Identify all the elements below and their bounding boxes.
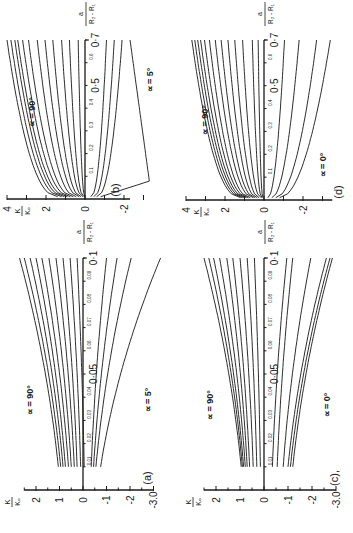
k-tick-label: 4 <box>181 207 192 213</box>
data-curve <box>235 40 259 198</box>
alpha-min-annotation: ∝ = 5° <box>143 387 153 412</box>
x-axis-label: aR₂ - R₁ <box>256 2 274 26</box>
a-tick-label: 0·1 <box>88 250 99 265</box>
panel-label: (a) <box>141 471 153 484</box>
k-tick-label: 0 <box>259 497 270 503</box>
k-tick-label: 1 <box>235 497 246 503</box>
data-curve <box>272 258 286 467</box>
a-tick-label: 0.06 <box>87 340 92 349</box>
x-axis-label: aR₂ - R₁ <box>256 220 274 244</box>
data-curve <box>221 40 255 198</box>
k-tick-label: -3.0 <box>148 491 159 509</box>
a-tick-label: 0.04 <box>87 386 92 395</box>
a-tick-label: 0·7 <box>90 32 101 47</box>
k-tick-label: 0 <box>259 207 270 213</box>
y-axis-label: KKₒ <box>13 206 31 216</box>
data-curve <box>63 258 77 467</box>
k-tick-label: -1 <box>101 495 112 504</box>
a-tick-label: 0.02 <box>268 433 273 442</box>
x-label-numerator: a <box>77 12 84 16</box>
data-curve <box>96 258 131 467</box>
a-tick-label: 0.4 <box>89 99 94 106</box>
chart-canvas: 420-20.10.20.30.40·50.60·7(b)∝ = 90°∝ = … <box>0 0 353 533</box>
x-label-denominator: R₂ - R₁ <box>267 221 274 242</box>
a-tick-label: 0.3 <box>268 122 273 129</box>
y-label-denominator: Kₒ <box>203 208 210 216</box>
a-tick-label: 0.1 <box>268 168 273 175</box>
k-tick-label: -2 <box>119 204 130 213</box>
y-label-denominator: Kₒ <box>14 498 21 506</box>
data-curve <box>94 40 115 197</box>
y-label-numerator: K <box>184 499 193 504</box>
panel-a: 210-1-2-3.00.010.020.030.040·050.060.070… <box>3 220 161 509</box>
k-tick-label: -2 <box>307 495 318 504</box>
a-tick-label: 0.01 <box>268 456 273 465</box>
a-tick-label: 0.07 <box>268 317 273 326</box>
a-tick-label: 0.2 <box>268 145 273 152</box>
panel-d: 420-20.10.20.30.40·50.60·7(d)∝ = 90°∝ = … <box>181 2 345 217</box>
k-tick-label: 0 <box>80 206 91 212</box>
panel-label: (c), <box>328 470 340 486</box>
figure-four-panel-chart: 420-20.10.20.30.40·50.60·7(b)∝ = 90°∝ = … <box>0 0 353 533</box>
x-axis-label: aR₂ - R₁ <box>77 2 95 26</box>
a-tick-label: 0.08 <box>268 294 273 303</box>
k-tick-label: 2 <box>31 497 42 503</box>
k-tick-label: -1 <box>283 495 294 504</box>
k-tick-label: 2 <box>211 497 222 503</box>
k-tick-label: -2 <box>125 495 136 504</box>
a-tick-label: 0·5 <box>269 78 280 93</box>
x-label-numerator: a <box>75 230 82 234</box>
a-tick-label: 0·5 <box>90 78 101 93</box>
a-tick-label: 0.02 <box>87 433 92 442</box>
y-axis-label: KKₒ <box>3 497 21 507</box>
alpha-min-annotation: ∝ = 0° <box>322 392 332 417</box>
a-tick-label: 0.2 <box>89 144 94 151</box>
alpha-90-annotation: ∝ = 90° <box>27 97 37 127</box>
y-axis-label: KKₒ <box>184 497 202 507</box>
y-axis-label: KKₒ <box>192 207 210 217</box>
data-curve <box>258 40 263 198</box>
a-tick-label: 0.6 <box>268 53 273 60</box>
a-tick-label: 0.09 <box>87 270 92 279</box>
y-label-denominator: Kₒ <box>24 207 31 215</box>
k-tick-label: 4 <box>2 206 13 212</box>
x-label-numerator: a <box>256 230 263 234</box>
alpha-min-annotation: ∝ = 5° <box>145 67 155 92</box>
k-tick-label: 1 <box>54 497 65 503</box>
x-label-numerator: a <box>256 12 263 16</box>
data-curve <box>276 40 317 198</box>
y-label-numerator: K <box>13 208 22 213</box>
k-tick-label: -2 <box>298 205 309 214</box>
data-curve <box>277 258 293 467</box>
y-label-numerator: K <box>3 499 12 504</box>
panel-label: (d) <box>332 185 344 198</box>
data-curve <box>254 258 260 467</box>
alpha-90-annotation: ∝ = 90° <box>205 390 215 420</box>
y-label-denominator: Kₒ <box>195 498 202 506</box>
data-curve <box>293 258 333 467</box>
alpha-90-annotation: ∝ = 90° <box>200 105 210 135</box>
x-label-denominator: R₂ - R₁ <box>86 221 93 242</box>
a-tick-label: 0.6 <box>89 53 94 60</box>
x-label-denominator: R₂ - R₁ <box>267 3 274 24</box>
x-axis-label: aR₂ - R₁ <box>75 220 93 244</box>
a-tick-label: 0.03 <box>87 410 92 419</box>
a-tick-label: 0.4 <box>268 99 273 106</box>
x-label-denominator: R₂ - R₁ <box>88 3 95 24</box>
a-tick-label: 0.03 <box>268 410 273 419</box>
k-tick-label: -3.0 <box>331 491 342 509</box>
a-tick-label: 0·7 <box>269 32 280 47</box>
a-tick-label: 0.1 <box>89 167 94 174</box>
alpha-90-annotation: ∝ = 90° <box>25 385 35 415</box>
data-curve <box>272 40 299 198</box>
data-curve <box>20 258 59 467</box>
a-tick-label: 0.08 <box>87 294 92 303</box>
data-curve <box>78 40 85 197</box>
panel-c: 210-1-2-3.00.010.020.030.040·050.060.070… <box>184 220 342 509</box>
data-curve <box>240 258 253 467</box>
a-tick-label: 0.01 <box>87 456 92 465</box>
data-curve <box>283 258 311 467</box>
a-tick-label: 0.06 <box>268 340 273 349</box>
k-tick-label: 2 <box>41 206 52 212</box>
a-tick-label: 0.04 <box>268 386 273 395</box>
